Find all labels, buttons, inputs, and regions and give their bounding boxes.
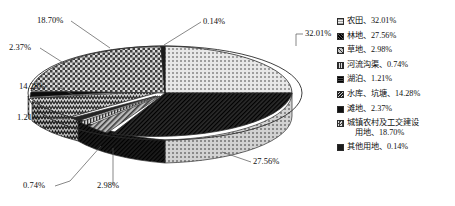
leader-074 bbox=[55, 146, 101, 186]
slice-top-chengzhen bbox=[31, 46, 165, 93]
slice-top-nongtian bbox=[165, 46, 292, 93]
callout-label-237: 2.37% bbox=[9, 43, 31, 52]
callout-label-074: 0.74% bbox=[23, 181, 45, 190]
leader-014 bbox=[164, 22, 201, 45]
legend-label-heliugouqu: 河流沟渠、0.74% bbox=[347, 60, 408, 69]
callout-label-1428: 14.28% bbox=[19, 82, 45, 91]
callout-label-1870: 18.70% bbox=[37, 16, 63, 25]
legend-swatch-tandi bbox=[337, 106, 344, 113]
legend-item-tandi[interactable]: 滩地、2.37% bbox=[337, 104, 455, 113]
legend-item-lindi[interactable]: 林地、27.56% bbox=[337, 31, 455, 40]
pie-svg bbox=[0, 0, 330, 206]
legend-label-caodi: 草地、2.98% bbox=[347, 45, 392, 54]
legend-swatch-nongtian bbox=[337, 18, 344, 25]
legend-swatch-caodi bbox=[337, 47, 344, 54]
pie-3d-body bbox=[28, 46, 302, 163]
legend-swatch-chengzhen bbox=[337, 120, 344, 127]
pie-plot-area bbox=[0, 0, 330, 206]
legend-swatch-lindi bbox=[337, 33, 344, 40]
legend-item-chengzhen[interactable]: 城镇农村及工交建设 用地、18.70% bbox=[337, 118, 455, 137]
legend-label-tandi: 滩地、2.37% bbox=[347, 104, 392, 113]
legend-item-nongtian[interactable]: 农田、32.01% bbox=[337, 16, 455, 25]
callout-label-121: 1.21% bbox=[17, 113, 39, 122]
legend-label-nongtian: 农田、32.01% bbox=[347, 16, 396, 25]
legend-item-heliugouqu[interactable]: 河流沟渠、0.74% bbox=[337, 60, 455, 69]
legend-label-chengzhen-line2: 用地、18.70% bbox=[347, 128, 451, 137]
legend-label-chengzhen: 城镇农村及工交建设 用地、18.70% bbox=[347, 118, 451, 137]
callout-label-3201: 32.01% bbox=[305, 29, 331, 38]
callout-label-298: 2.98% bbox=[97, 181, 119, 190]
legend-swatch-hupo bbox=[337, 76, 344, 83]
callout-label-2756: 27.56% bbox=[253, 157, 279, 166]
leader-237 bbox=[40, 48, 62, 62]
legend-label-hupo: 湖泊、1.21% bbox=[347, 74, 392, 83]
pie-chart-figure: 18.70% 0.14% 32.01% 2.37% 14.28% 1.21% 0… bbox=[0, 0, 455, 206]
legend-item-shuikukengtang[interactable]: 水库、坑塘、14.28% bbox=[337, 89, 455, 98]
legend-item-caodi[interactable]: 草地、2.98% bbox=[337, 45, 455, 54]
legend-label-lindi: 林地、27.56% bbox=[347, 31, 396, 40]
legend-swatch-shuikukengtang bbox=[337, 91, 344, 98]
legend-swatch-heliugouqu bbox=[337, 62, 344, 69]
chart-legend: 农田、32.01% 林地、27.56% 草地、2.98% 河流沟渠、0.74% … bbox=[337, 16, 455, 157]
callout-label-014: 0.14% bbox=[203, 17, 225, 26]
legend-swatch-qitayongdi bbox=[337, 144, 344, 151]
legend-label-shuikukengtang: 水库、坑塘、14.28% bbox=[347, 89, 420, 98]
legend-item-qitayongdi[interactable]: 其他用地、0.14% bbox=[337, 142, 455, 151]
legend-label-chengzhen-line1: 城镇农村及工交建设 bbox=[347, 118, 419, 127]
legend-item-hupo[interactable]: 湖泊、1.21% bbox=[337, 74, 455, 83]
leader-3201 bbox=[296, 34, 303, 46]
leader-1870 bbox=[71, 21, 110, 48]
legend-label-qitayongdi: 其他用地、0.14% bbox=[347, 142, 408, 151]
